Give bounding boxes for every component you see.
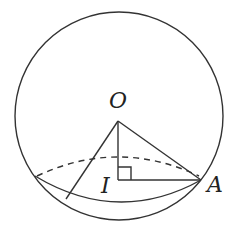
segment-OB bbox=[66, 121, 118, 199]
label-O: O bbox=[109, 88, 127, 113]
right-angle-marker bbox=[118, 167, 131, 180]
sphere-outline bbox=[15, 12, 223, 220]
label-I: I bbox=[100, 173, 111, 198]
label-A: A bbox=[205, 172, 223, 197]
diagram-canvas: O I A bbox=[0, 0, 239, 231]
sphere-diagram: O I A bbox=[0, 0, 239, 231]
